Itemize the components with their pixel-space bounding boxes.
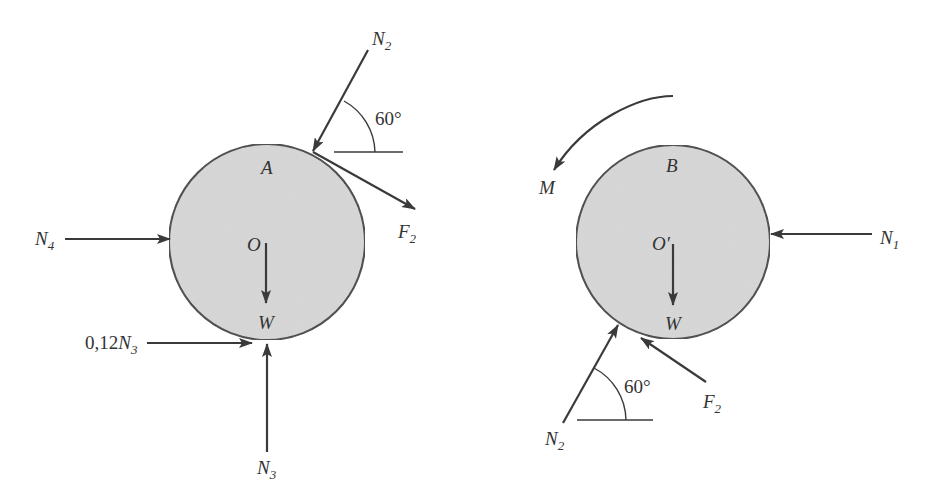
n1-label: N1 [879, 227, 899, 252]
n2-label-b: N2 [544, 428, 565, 453]
n2-arrow-b [563, 325, 618, 423]
angle-label-a: 60° [375, 108, 402, 129]
angle-arc-a [344, 101, 375, 152]
disc-a-label: A [259, 157, 273, 178]
f2-arrow-b [641, 338, 706, 382]
center-o-label: O [247, 234, 261, 255]
moment-label: M [538, 177, 556, 198]
f2-label-b: F2 [702, 391, 722, 416]
weight-label-b: W [665, 313, 683, 334]
angle-arc-b [594, 368, 626, 420]
n4-label: N4 [34, 228, 55, 253]
disc-b-label: B [666, 155, 678, 176]
disc-b-group: B O′ W M N1 N2 60° F2 [538, 96, 899, 453]
center-o-prime-label: O′ [652, 233, 671, 254]
free-body-diagram: A O W N2 60° F2 N4 0,12N3 N3 B O′ W [0, 0, 928, 497]
friction-label: 0,12N3 [85, 332, 138, 357]
disc-a-group: A O W N2 60° F2 N4 0,12N3 N3 [34, 28, 417, 482]
n3-label: N3 [256, 457, 277, 482]
n2-label-a: N2 [371, 28, 392, 53]
angle-label-b: 60° [624, 376, 651, 397]
weight-label-a: W [258, 312, 276, 333]
n2-arrow-a [313, 50, 368, 151]
f2-label-a: F2 [397, 221, 417, 246]
